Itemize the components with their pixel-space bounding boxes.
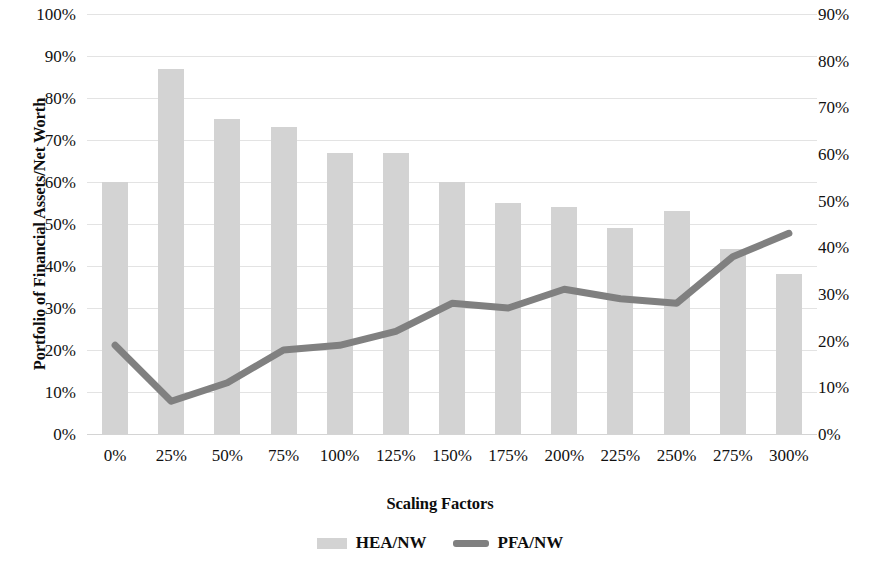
y-axis-left-tick-label: 10%	[16, 384, 76, 401]
y-axis-right-tick-label: 70%	[818, 99, 878, 116]
x-axis-tick-label: 200%	[536, 446, 592, 466]
x-axis-line	[87, 434, 817, 435]
x-axis-tick-label: 250%	[649, 446, 705, 466]
legend-bar-swatch-icon	[317, 538, 347, 549]
y-axis-right-tick-label: 30%	[818, 286, 878, 303]
y-axis-right-tick-label: 50%	[818, 193, 878, 210]
x-axis-tick-label: 150%	[424, 446, 480, 466]
x-axis-ticks: 0%25%50%75%100%125%150%175%200%225%250%2…	[87, 446, 817, 472]
y-axis-left-tick-label: 0%	[16, 426, 76, 443]
y-axis-left-tick-label: 100%	[16, 6, 76, 23]
y-axis-left-tick-label: 50%	[16, 216, 76, 233]
y-axis-right-tick-label: 90%	[818, 6, 878, 23]
x-axis-tick-label: 225%	[592, 446, 648, 466]
x-axis-tick-label: 0%	[87, 446, 143, 466]
y-axis-left-ticks: 100%90%80%70%60%50%40%30%20%10%0%	[14, 0, 76, 450]
legend-item[interactable]: HEA/NW	[317, 533, 427, 553]
chart-legend: HEA/NWPFA/NW	[0, 528, 880, 558]
x-axis-tick-label: 275%	[705, 446, 761, 466]
y-axis-left-tick-label: 70%	[16, 132, 76, 149]
x-axis-tick-label: 125%	[368, 446, 424, 466]
y-axis-right-tick-label: 60%	[818, 146, 878, 163]
x-axis-title: Scaling Factors	[90, 494, 790, 514]
y-axis-right-tick-label: 40%	[818, 239, 878, 256]
legend-item-label: PFA/NW	[498, 533, 564, 553]
x-axis-tick-label: 300%	[761, 446, 817, 466]
y-axis-left-tick-label: 30%	[16, 300, 76, 317]
legend-line-swatch-icon	[453, 540, 489, 547]
line-path	[115, 233, 789, 401]
y-axis-left-tick-label: 80%	[16, 90, 76, 107]
x-axis-tick-label: 175%	[480, 446, 536, 466]
y-axis-left-tick-label: 20%	[16, 342, 76, 359]
y-axis-left-tick-label: 60%	[16, 174, 76, 191]
y-axis-left-tick-label: 40%	[16, 258, 76, 275]
x-axis-tick-label: 25%	[143, 446, 199, 466]
x-axis-tick-label: 50%	[199, 446, 255, 466]
x-axis-tick-label: 100%	[312, 446, 368, 466]
legend-item[interactable]: PFA/NW	[453, 533, 564, 553]
y-axis-left-tick-label: 90%	[16, 48, 76, 65]
legend-item-label: HEA/NW	[356, 533, 427, 553]
y-axis-right-tick-label: 20%	[818, 333, 878, 350]
y-axis-right-tick-label: 10%	[818, 379, 878, 396]
line-series-pfa-nw	[87, 14, 817, 434]
y-axis-right-ticks: 90%80%70%60%50%40%30%20%10%0%	[818, 0, 880, 450]
y-axis-right-tick-label: 80%	[818, 53, 878, 70]
y-axis-right-tick-label: 0%	[818, 426, 878, 443]
chart-container: Portfolio of Financial Assets/Net Worth …	[0, 0, 880, 569]
x-axis-tick-label: 75%	[255, 446, 311, 466]
plot-area	[87, 14, 817, 434]
